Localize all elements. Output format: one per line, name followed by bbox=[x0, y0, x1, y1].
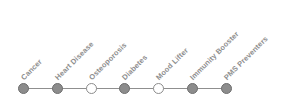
timeline-node-immunity-booster[interactable] bbox=[187, 83, 198, 94]
timeline-figure: CancerHeart DiseaseOsteoporosisDiabetesM… bbox=[0, 0, 307, 104]
timeline-node-mood-lifter[interactable] bbox=[153, 83, 164, 94]
timeline-label-mood-lifter: Mood Lifter bbox=[155, 47, 190, 82]
timeline-node-osteoporosis[interactable] bbox=[86, 83, 97, 94]
timeline-label-cancer: Cancer bbox=[20, 58, 44, 82]
timeline-label-diabetes: Diabetes bbox=[121, 54, 149, 82]
timeline-node-diabetes[interactable] bbox=[119, 83, 130, 94]
timeline-node-heart-disease[interactable] bbox=[52, 83, 63, 94]
timeline-node-pms-preventers[interactable] bbox=[221, 83, 232, 94]
timeline-node-cancer[interactable] bbox=[18, 83, 29, 94]
